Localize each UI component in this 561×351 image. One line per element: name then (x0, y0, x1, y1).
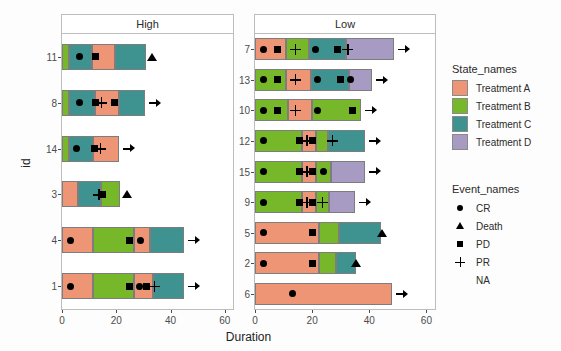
table-row (62, 90, 233, 116)
legend-swatch-treatment-c (452, 116, 468, 132)
legend-item-treatment-c[interactable]: Treatment C (452, 115, 531, 133)
event-marker-cr (260, 107, 267, 114)
event-marker-pr (149, 281, 160, 292)
event-marker-pd (92, 53, 99, 60)
legend-item-treatment-d[interactable]: Treatment D (452, 133, 531, 151)
y-axis-tick-mark (251, 49, 254, 50)
event-marker-cr (260, 260, 267, 267)
event-marker-pd (274, 76, 281, 83)
legend-item-cr[interactable]: CR (452, 199, 519, 217)
y-axis-tick-label: 3 (35, 189, 57, 200)
legend-item-death[interactable]: Death (452, 217, 519, 235)
event-marker-pr (317, 197, 328, 208)
legend-label: CR (476, 203, 490, 214)
legend-label: NA (476, 275, 490, 286)
y-axis-tick-label: 7 (228, 44, 250, 55)
facet-panel-high: High (61, 14, 234, 310)
legend-label: Treatment B (476, 101, 531, 112)
event-marker-cr (260, 199, 267, 206)
legend-state-names: State_namesTreatment ATreatment BTreatme… (452, 63, 531, 151)
facet-strip-label: High (62, 15, 233, 34)
event-marker-death (377, 229, 387, 237)
y-axis-tick-label: 5 (228, 227, 250, 238)
event-marker-pd (334, 46, 341, 53)
ongoing-arrow-icon (149, 98, 161, 107)
event-marker-pd (126, 283, 133, 290)
x-axis-tick-label: 20 (111, 315, 122, 326)
legend-label: Treatment A (476, 83, 530, 94)
plus-icon (452, 254, 468, 270)
ongoing-arrow-icon (359, 198, 371, 207)
none-icon (452, 272, 468, 288)
x-axis-tick-mark (255, 310, 256, 313)
event-marker-pd (309, 260, 316, 267)
bar-segment (346, 38, 393, 60)
table-row (255, 191, 435, 213)
x-axis-tick-label: 20 (307, 315, 318, 326)
legend-item-pr[interactable]: PR (452, 253, 519, 271)
ongoing-arrow-icon (369, 136, 381, 145)
y-axis-tick-mark (251, 110, 254, 111)
ongoing-arrow-icon (376, 75, 388, 84)
ongoing-arrow-icon (396, 289, 408, 298)
x-axis-tick-label: 0 (59, 315, 65, 326)
ongoing-arrow-icon (369, 167, 381, 176)
bar-segment (150, 227, 184, 253)
square-icon (452, 236, 468, 252)
event-marker-pr (290, 105, 301, 116)
facet-plot-area (62, 34, 233, 309)
legend-label: Death (476, 221, 503, 232)
event-marker-pd (309, 168, 316, 175)
legend-item-treatment-a[interactable]: Treatment A (452, 79, 531, 97)
y-axis-tick-mark (58, 149, 61, 150)
bar-segment (62, 136, 69, 162)
chart-canvas: High118143410204060Low713101215952602040… (0, 0, 561, 351)
event-marker-pd (309, 137, 316, 144)
legend-event-names: Event_namesCRDeathPDPRNA (452, 183, 519, 289)
event-marker-pd (111, 99, 118, 106)
legend-item-treatment-b[interactable]: Treatment B (452, 97, 531, 115)
legend-label: PD (476, 239, 490, 250)
y-axis-tick-mark (251, 80, 254, 81)
x-axis-tick-label: 40 (165, 315, 176, 326)
y-axis-tick-label: 14 (35, 143, 57, 154)
x-axis-tick-label: 60 (421, 315, 432, 326)
y-axis-tick-mark (251, 202, 254, 203)
legend-swatch-treatment-b (452, 98, 468, 114)
legend-title-state: State_names (452, 63, 531, 75)
event-marker-pr (327, 135, 338, 146)
circle-icon (457, 205, 463, 211)
y-axis-tick-label: 13 (228, 74, 250, 85)
y-axis-tick-label: 6 (228, 288, 250, 299)
table-row (62, 181, 233, 207)
y-axis-tick-label: 15 (228, 166, 250, 177)
table-row (62, 136, 233, 162)
facet-strip-label: Low (255, 15, 435, 34)
y-axis-tick-mark (251, 294, 254, 295)
legend-label: Treatment C (476, 119, 531, 130)
bar-segment (329, 191, 355, 213)
y-axis-tick-mark (251, 233, 254, 234)
y-axis-tick-label: 11 (35, 51, 57, 62)
table-row (255, 252, 435, 274)
table-row (62, 273, 233, 299)
y-axis-tick-mark (58, 240, 61, 241)
x-axis-tick-mark (369, 310, 370, 313)
event-marker-pd (349, 107, 356, 114)
legend-item-na[interactable]: NA (452, 271, 519, 289)
legend-item-pd[interactable]: PD (452, 235, 519, 253)
table-row (255, 222, 435, 244)
y-axis-tick-mark (58, 103, 61, 104)
x-axis-tick-mark (225, 310, 226, 313)
y-axis-tick-mark (58, 286, 61, 287)
table-row (255, 161, 435, 183)
legend-label: Treatment D (476, 137, 531, 148)
y-axis-tick-label: 12 (228, 135, 250, 146)
table-row (62, 227, 233, 253)
event-marker-cr (289, 290, 296, 297)
event-marker-pd (309, 199, 316, 206)
table-row (62, 44, 233, 70)
bar-segment (339, 222, 380, 244)
ongoing-arrow-icon (123, 144, 135, 153)
event-marker-cr (320, 168, 327, 175)
